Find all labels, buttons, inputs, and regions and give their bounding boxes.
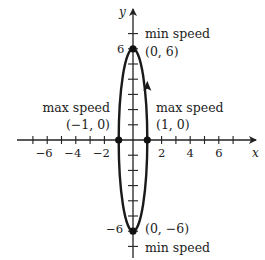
right-coord-label: (1, 0) xyxy=(156,117,190,132)
point-marker xyxy=(129,228,136,235)
left-speed-label: max speed xyxy=(42,100,110,115)
bottom-speed-label: min speed xyxy=(145,240,210,255)
x-tick-label: 4 xyxy=(187,146,194,160)
x-tick-label: 2 xyxy=(158,146,165,160)
point-marker xyxy=(144,136,151,143)
point-marker xyxy=(129,45,136,52)
x-tick-label: −4 xyxy=(64,146,81,160)
ellipse-speed-diagram: −6−4−2246 x y 6 −6 min speed (0, 6) (0, … xyxy=(0,0,265,260)
y-tick-label-6: 6 xyxy=(117,42,124,56)
right-speed-label: max speed xyxy=(156,100,224,115)
top-coord-label: (0, 6) xyxy=(145,44,179,59)
left-coord-label: (−1, 0) xyxy=(66,117,110,132)
bottom-coord-label: (0, −6) xyxy=(145,221,189,236)
x-axis-tick-labels: −6−4−2246 xyxy=(36,146,223,160)
y-axis-label: y xyxy=(118,5,126,19)
top-speed-label: min speed xyxy=(145,26,210,41)
x-tick-label: −2 xyxy=(93,146,110,160)
x-tick-label: 6 xyxy=(215,146,222,160)
diagram-canvas: −6−4−2246 x y 6 −6 min speed (0, 6) (0, … xyxy=(0,0,265,260)
x-axis-label: x xyxy=(252,146,259,160)
x-tick-label: −6 xyxy=(36,146,53,160)
y-tick-label-neg6: −6 xyxy=(106,222,123,236)
point-marker xyxy=(115,136,122,143)
